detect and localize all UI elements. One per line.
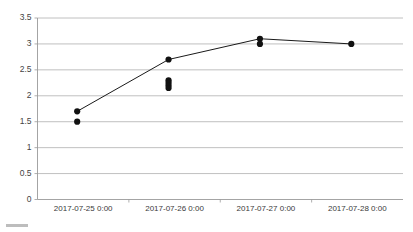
- y-tick-label: 1: [27, 142, 32, 152]
- y-tick-label: 0: [27, 194, 32, 204]
- y-tick-label: 3: [27, 38, 32, 48]
- data-point: [74, 119, 80, 125]
- x-tick-label: 2017-07-27 0:00: [237, 204, 296, 213]
- data-point: [74, 108, 80, 114]
- data-point: [348, 41, 354, 47]
- legend-swatch: [6, 224, 28, 227]
- data-point: [165, 85, 171, 91]
- chart-container: 00.511.522.533.5 2017-07-25 0:002017-07-…: [0, 0, 413, 232]
- data-point: [165, 56, 171, 62]
- y-tick-label: 2: [27, 90, 32, 100]
- data-point: [257, 41, 263, 47]
- y-tick-label: 2.5: [20, 64, 32, 74]
- x-tick-label: 2017-07-26 0:00: [145, 204, 204, 213]
- y-tick-label: 0.5: [20, 168, 32, 178]
- line-chart: 00.511.522.533.5 2017-07-25 0:002017-07-…: [0, 0, 413, 232]
- y-tick-label: 3.5: [20, 12, 32, 22]
- chart-background: [0, 0, 413, 232]
- y-tick-label: 1.5: [20, 116, 32, 126]
- x-tick-label: 2017-07-28 0:00: [328, 204, 387, 213]
- x-tick-label: 2017-07-25 0:00: [54, 204, 113, 213]
